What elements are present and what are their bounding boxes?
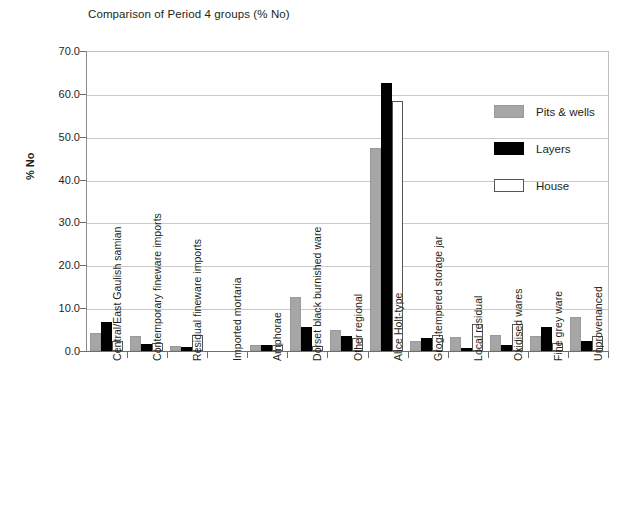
x-axis-tick-mark	[568, 351, 569, 358]
x-axis-tick-mark	[368, 351, 369, 358]
x-axis-category-label: Imported mortaria	[231, 277, 243, 361]
legend-label: Layers	[536, 143, 571, 155]
legend-label: Pits & wells	[536, 106, 595, 118]
x-axis-tick-mark	[247, 351, 248, 358]
legend-item[interactable]: Layers	[494, 130, 614, 167]
y-axis-tick-mark	[80, 94, 86, 95]
x-axis-category-label: Contemporary fineware imports	[151, 213, 163, 361]
x-axis-category-label: Local residual	[472, 296, 484, 362]
y-axis-tick-mark	[80, 351, 86, 352]
y-axis-tick-mark	[80, 308, 86, 309]
legend-swatch	[494, 105, 524, 118]
x-axis-category-label: Dorset black burnished ware	[311, 227, 323, 361]
x-axis-category-label: Grog-tempered storage jar	[432, 236, 444, 361]
legend-swatch	[494, 142, 524, 155]
bar-chart: Comparison of Period 4 groups (% No) % N…	[0, 0, 640, 531]
x-axis-category-labels: Central/East Gaulish samianContemporary …	[0, 0, 640, 531]
y-axis-tick-mark	[80, 222, 86, 223]
x-axis-category-label: Residual fineware imports	[191, 239, 203, 361]
x-axis-tick-mark	[488, 351, 489, 358]
x-axis-tick-mark	[327, 351, 328, 358]
y-axis-tick-mark	[80, 137, 86, 138]
y-axis-tick-mark	[80, 265, 86, 266]
x-axis-tick-mark	[127, 351, 128, 358]
x-axis-category-label: Amphorae	[271, 312, 283, 361]
y-axis-tick-mark	[80, 180, 86, 181]
x-axis-category-label: Other regional	[352, 294, 364, 361]
legend-item[interactable]: Pits & wells	[494, 93, 614, 130]
x-axis-tick-mark	[207, 351, 208, 358]
x-axis-tick-mark	[448, 351, 449, 358]
x-axis-category-label: Oxidised wares	[512, 289, 524, 361]
x-axis-category-label: Alice Holt-type	[392, 293, 404, 361]
x-axis-tick-mark	[408, 351, 409, 358]
x-axis-category-label: Fine grey ware	[552, 291, 564, 361]
x-axis-tick-mark	[167, 351, 168, 358]
x-axis-category-label: Unprovenanced	[592, 286, 604, 361]
y-axis-tick-mark	[80, 51, 86, 52]
x-axis-category-label: Central/East Gaulish samian	[111, 227, 123, 361]
legend-swatch	[494, 179, 524, 192]
x-axis-tick-mark	[287, 351, 288, 358]
chart-legend: Pits & wellsLayersHouse	[494, 93, 614, 204]
legend-label: House	[536, 180, 569, 192]
legend-item[interactable]: House	[494, 167, 614, 204]
x-axis-tick-mark	[528, 351, 529, 358]
x-axis-tick-mark	[608, 351, 609, 358]
